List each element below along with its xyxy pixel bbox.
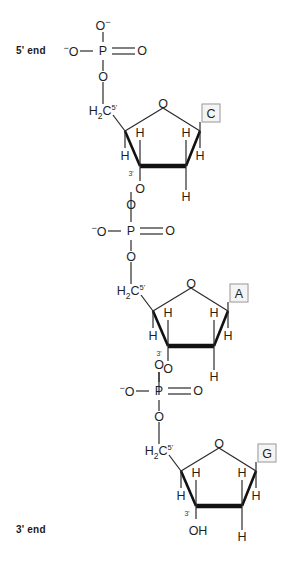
- sugar1-c4-hydrogen: H: [120, 149, 129, 163]
- phosphate1-right-oxygen: O: [137, 44, 147, 58]
- base-box-a[interactable]: A: [230, 284, 249, 303]
- sugar3-c4-hydrogen: H: [176, 489, 185, 503]
- sugar3-c5-label: H2C5': [145, 443, 173, 461]
- sugar1-ring-oxygen: O: [158, 97, 168, 111]
- phosphate3-bottom-oxygen: O: [154, 410, 164, 424]
- phosphate3-top-oxygen: O: [154, 358, 164, 372]
- sugar1-c2-hydrogen: H: [181, 126, 190, 140]
- sugar1-c5-label: H2C5': [89, 103, 117, 121]
- phosphate3-left-oxygen: −O: [120, 383, 135, 399]
- phosphate2-top-oxygen: O: [126, 198, 136, 212]
- sugar3-c3-hydrogen: H: [191, 466, 200, 480]
- dna-backbone-diagram: 5' end 3' end O− −O P O O H2C5' O H H H …: [0, 0, 288, 565]
- sugar3-c3-prime-label: 3': [184, 510, 189, 517]
- sugar2-c3-oxygen: O: [163, 362, 173, 376]
- sugar3-ring-oxygen: O: [214, 437, 224, 451]
- sugar1-c3-oxygen: O: [135, 182, 145, 196]
- phosphate1-top-oxygen: O−: [96, 17, 111, 33]
- sugar3-c3-hydroxyl: OH: [189, 524, 208, 538]
- phosphate3-right-oxygen: O: [193, 384, 203, 398]
- sugar2-c1-hydrogen: H: [223, 329, 232, 343]
- base-box-c[interactable]: C: [202, 104, 221, 123]
- sugar1-c2-hydrogen-down: H: [181, 190, 190, 204]
- sugar2-c2-hydrogen-down: H: [209, 370, 218, 384]
- phosphate1-left-oxygen: −O: [64, 43, 79, 59]
- sugar2-c5-label: H2C5': [117, 283, 145, 301]
- phosphate1-bottom-oxygen: O: [98, 70, 108, 84]
- phosphate2-bottom-oxygen: O: [126, 250, 136, 264]
- sugar1-c3-prime-label: 3': [128, 170, 133, 177]
- phosphate2-left-oxygen: −O: [92, 223, 107, 239]
- phosphate2-right-oxygen: O: [165, 224, 175, 238]
- sugar2-c3-hydrogen: H: [163, 306, 172, 320]
- phosphate3-phosphorus: P: [155, 384, 163, 398]
- phosphate1-phosphorus: P: [99, 44, 107, 58]
- sugar1-c1-hydrogen: H: [195, 149, 204, 163]
- three-prime-end-label: 3' end: [16, 524, 46, 535]
- sugar2-ring-oxygen: O: [186, 277, 196, 291]
- five-prime-end-label: 5' end: [16, 45, 46, 56]
- sugar3-c2-hydrogen: H: [237, 466, 246, 480]
- sugar2-c2-hydrogen: H: [209, 306, 218, 320]
- sugar2-c4-hydrogen: H: [148, 329, 157, 343]
- sugar3-c2-hydrogen-down: H: [237, 530, 246, 544]
- phosphate2-phosphorus: P: [127, 224, 135, 238]
- sugar2-c3-prime-label: 3': [156, 350, 161, 357]
- base-box-g[interactable]: G: [258, 444, 277, 463]
- sugar3-c1-hydrogen: H: [251, 489, 260, 503]
- sugar1-c3-hydrogen: H: [135, 126, 144, 140]
